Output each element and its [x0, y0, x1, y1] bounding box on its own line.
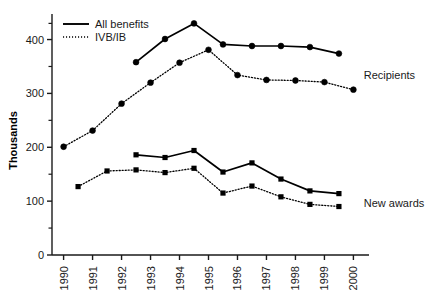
data-point-square — [191, 148, 196, 153]
data-point-circle — [264, 77, 270, 83]
data-point-circle — [162, 36, 168, 42]
data-point-circle — [119, 101, 125, 107]
data-point-circle — [90, 128, 96, 134]
data-point-circle — [133, 59, 139, 65]
x-tick-label: 1990 — [58, 266, 70, 290]
data-point-circle — [249, 43, 255, 49]
data-point-square — [249, 160, 254, 165]
data-point-square — [336, 204, 341, 209]
x-tick-label: 2000 — [347, 266, 359, 290]
series-line — [136, 23, 339, 62]
data-point-circle — [61, 144, 67, 150]
data-point-square — [133, 152, 138, 157]
data-point-square — [336, 191, 341, 196]
data-point-circle — [307, 44, 313, 50]
data-point-square — [220, 169, 225, 174]
data-point-circle — [278, 43, 284, 49]
x-tick-label: 1995 — [203, 266, 215, 290]
x-tick-label: 1994 — [174, 266, 186, 290]
y-axis-title: Thousands — [7, 111, 19, 170]
y-tick-label: 300 — [26, 87, 44, 99]
x-tick-label: 1997 — [260, 266, 272, 290]
series-1 — [133, 20, 342, 65]
x-tick-label: 1999 — [318, 266, 330, 290]
data-point-square — [220, 190, 225, 195]
y-tick-label: 200 — [26, 141, 44, 153]
series-2 — [61, 47, 357, 150]
x-tick-label: 1992 — [116, 266, 128, 290]
data-point-square — [104, 168, 109, 173]
data-point-circle — [351, 87, 357, 93]
legend — [63, 24, 89, 37]
y-tick-label: 400 — [26, 34, 44, 46]
data-point-circle — [336, 51, 342, 57]
data-point-square — [191, 166, 196, 171]
legend-label-1: All benefits — [95, 18, 149, 30]
data-point-square — [249, 183, 254, 188]
data-point-square — [75, 184, 80, 189]
recipients-label: Recipients — [364, 69, 416, 81]
y-tick-label: 100 — [26, 195, 44, 207]
data-point-circle — [322, 79, 328, 85]
series-line — [64, 50, 354, 147]
data-point-circle — [177, 60, 183, 66]
data-point-circle — [235, 72, 241, 78]
data-point-square — [307, 202, 312, 207]
data-point-circle — [220, 41, 226, 47]
x-tick-label: 1996 — [231, 266, 243, 290]
data-point-square — [278, 176, 283, 181]
data-point-square — [162, 170, 167, 175]
line-chart: 0100200300400199019911992199319941995199… — [0, 0, 425, 293]
data-point-square — [162, 155, 167, 160]
data-point-circle — [148, 80, 154, 86]
legend-label-2: IVB/IB — [95, 31, 126, 43]
x-tick-label: 1998 — [289, 266, 301, 290]
data-point-circle — [191, 20, 197, 26]
data-point-square — [307, 188, 312, 193]
x-tick-label: 1993 — [145, 266, 157, 290]
chart-container: 0100200300400199019911992199319941995199… — [0, 0, 425, 293]
series-layer — [61, 20, 357, 209]
y-tick-label: 0 — [38, 249, 44, 261]
new-awards-label: New awards — [364, 197, 425, 209]
x-tick-label: 1991 — [87, 266, 99, 290]
data-point-circle — [206, 47, 212, 53]
data-point-square — [278, 194, 283, 199]
data-point-square — [133, 167, 138, 172]
data-point-circle — [293, 78, 299, 84]
